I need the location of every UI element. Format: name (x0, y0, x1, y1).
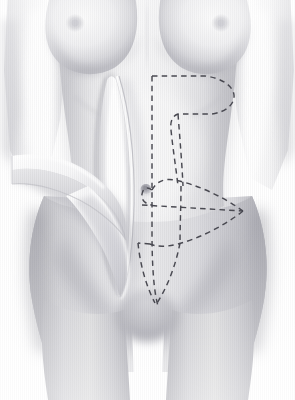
lower-marking-left-arc (138, 243, 150, 244)
lower-marking-interior-vertical (180, 186, 181, 243)
lower-marking-notch (142, 188, 152, 205)
lower-marking-right-leg (157, 243, 180, 303)
upper-marking-inner (178, 114, 183, 186)
horizontal-guide-marking (142, 205, 243, 211)
upper-marking (152, 76, 234, 186)
illustration-canvas (0, 0, 295, 400)
lower-marking-lower-lobe (150, 211, 243, 246)
vertical-midline-marking (152, 76, 158, 306)
surgical-markings (0, 0, 295, 400)
